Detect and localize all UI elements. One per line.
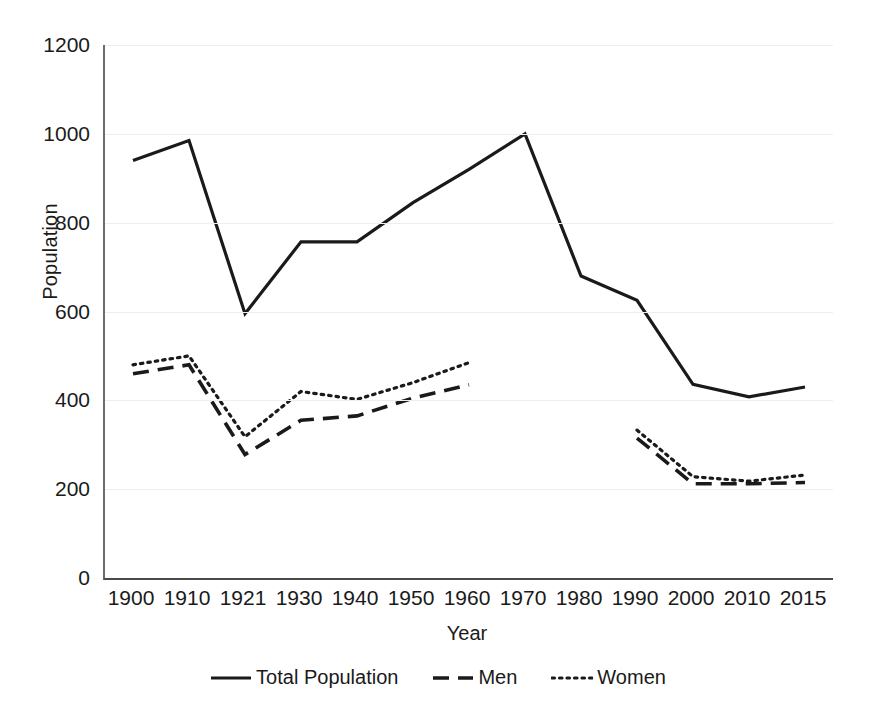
population-line-chart: Population 020040060080010001200 1900191… [0, 0, 876, 726]
x-axis-tick-labels: 1900191019211930194019501960197019801990… [103, 586, 831, 616]
y-tick-label: 600 [18, 301, 90, 322]
x-tick-label: 2015 [768, 586, 838, 610]
legend-item[interactable]: Total Population [210, 666, 398, 689]
gridline [105, 45, 833, 46]
y-tick-label: 0 [18, 567, 90, 588]
y-tick-label: 400 [18, 389, 90, 410]
gridline [105, 134, 833, 135]
dotted-line-swatch [551, 671, 593, 685]
legend-label: Men [478, 666, 517, 689]
series-line [133, 134, 805, 397]
legend-label: Total Population [256, 666, 398, 689]
x-axis-title: Year [103, 622, 831, 645]
gridline [105, 223, 833, 224]
y-axis-tick-labels: 020040060080010001200 [18, 0, 90, 726]
gridline [105, 400, 833, 401]
legend-label: Women [597, 666, 666, 689]
plot-area [103, 45, 833, 580]
legend-item[interactable]: Men [432, 666, 517, 689]
chart-legend: Total PopulationMenWomen [0, 666, 876, 689]
y-tick-label: 200 [18, 478, 90, 499]
y-tick-label: 1000 [18, 123, 90, 144]
dashed-line-swatch [432, 671, 474, 685]
legend-item[interactable]: Women [551, 666, 666, 689]
series-line [133, 356, 469, 437]
y-tick-label: 800 [18, 212, 90, 233]
series-line [637, 430, 805, 481]
series-line [133, 365, 469, 455]
gridline [105, 312, 833, 313]
y-tick-label: 1200 [18, 34, 90, 55]
solid-line-swatch [210, 671, 252, 685]
gridline [105, 489, 833, 490]
